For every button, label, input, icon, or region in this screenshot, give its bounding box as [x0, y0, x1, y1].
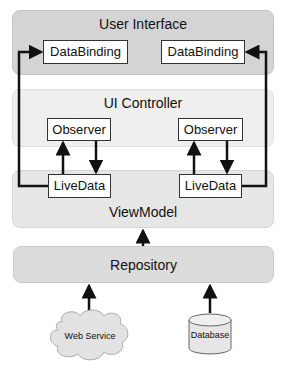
arrow-livedata-to-databinding-left: [19, 52, 48, 186]
arrow-livedata-to-databinding-right: [242, 52, 266, 186]
database-label: Database: [186, 330, 234, 340]
connectors: [0, 0, 281, 373]
web-service-label: Web Service: [50, 331, 130, 341]
